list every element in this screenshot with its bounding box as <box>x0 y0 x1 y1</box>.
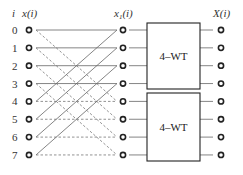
intermediate-node <box>120 81 125 86</box>
intermediate-node <box>120 27 125 32</box>
input-node <box>26 152 31 157</box>
input-node <box>26 99 31 104</box>
output-node <box>218 117 223 122</box>
wt-block-label: 4–WT <box>159 50 187 62</box>
header-intermediate: x1(i) <box>113 7 133 21</box>
wt-block-label: 4–WT <box>159 121 187 133</box>
intermediate-node <box>120 135 125 140</box>
header-index: i <box>12 7 15 19</box>
transform-blocks: 4–WT4–WT <box>147 23 200 161</box>
output-node <box>218 135 223 140</box>
output-node <box>218 81 223 86</box>
intermediate-node <box>120 117 125 122</box>
intermediate-node <box>120 152 125 157</box>
input-node <box>26 45 31 50</box>
row-index-label: 5 <box>12 113 18 125</box>
input-node <box>26 27 31 32</box>
header-output: X(i) <box>212 7 230 20</box>
output-node <box>218 27 223 32</box>
input-node <box>26 117 31 122</box>
intermediate-node <box>120 63 125 68</box>
output-node <box>218 63 223 68</box>
intermediate-node <box>120 45 125 50</box>
input-node <box>26 63 31 68</box>
row-index-label: 7 <box>12 149 18 161</box>
output-node <box>218 45 223 50</box>
row-index-label: 6 <box>12 131 18 143</box>
row-index-label: 1 <box>12 42 18 54</box>
input-node <box>26 135 31 140</box>
header-input: x(i) <box>21 7 38 20</box>
butterfly-diagram: i x(i) x1(i) X(i) 01234567 4–WT4–WT <box>0 0 243 175</box>
input-node <box>26 81 31 86</box>
row-index-label: 4 <box>12 95 18 107</box>
svg-text:x1(i): x1(i) <box>113 7 133 21</box>
row-index-label: 2 <box>12 60 18 72</box>
row-index-label: 3 <box>12 78 18 90</box>
butterfly-connections <box>36 30 117 155</box>
output-node <box>218 152 223 157</box>
row-index-labels: 01234567 <box>12 24 18 161</box>
output-node <box>218 99 223 104</box>
row-index-label: 0 <box>12 24 18 36</box>
intermediate-node <box>120 99 125 104</box>
